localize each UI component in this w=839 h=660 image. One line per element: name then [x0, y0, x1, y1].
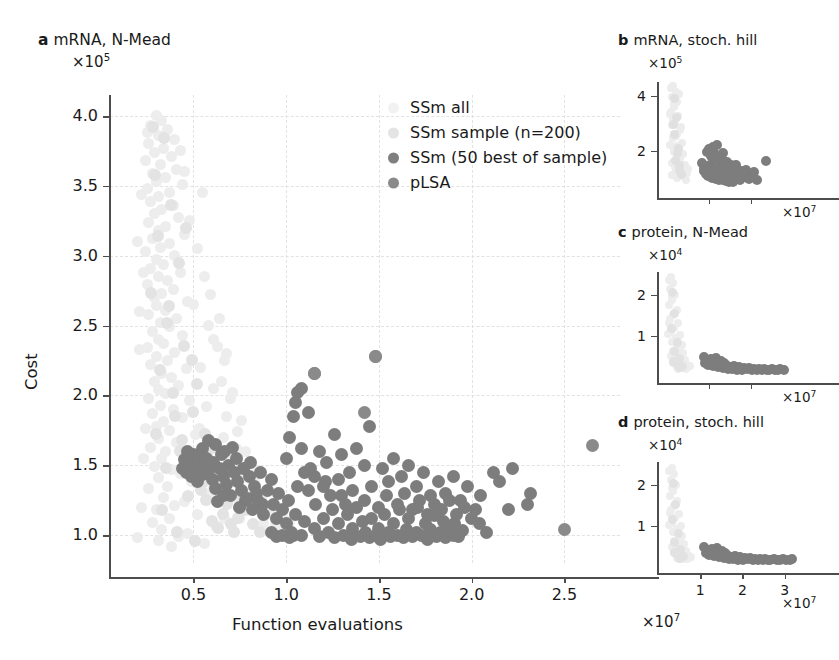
x-axis-tick [785, 573, 787, 579]
panel-title-d: dprotein, stoch. hill [618, 415, 764, 430]
legend-label: SSm (50 best of sample) [410, 150, 607, 166]
x-axis-multiplier-d: ×107 [782, 597, 816, 611]
axis-spine-left [657, 462, 659, 573]
data-point [674, 529, 683, 538]
legend-marker-2 [388, 127, 399, 138]
y-axis-tick-label: 1 [637, 519, 646, 533]
legend-marker-4 [388, 177, 399, 188]
panel-letter-d: d [618, 414, 628, 430]
data-point [787, 554, 797, 564]
data-point [669, 479, 678, 488]
data-point [708, 546, 718, 556]
panel-title-text-d: protein, stoch. hill [633, 414, 764, 430]
legend-label: SSm all [410, 100, 470, 116]
axis-spine-bottom [657, 573, 839, 575]
legend-marker-3 [388, 152, 399, 163]
data-point [775, 555, 785, 565]
y-axis-tick-label: 2 [637, 478, 646, 492]
data-point [668, 515, 677, 524]
legend-label: pLSA [410, 175, 450, 191]
data-point [722, 550, 732, 560]
plot-area-d [658, 462, 810, 567]
data-point [765, 555, 775, 565]
y-axis-multiplier-d: ×104 [648, 439, 682, 453]
x-axis-tick [742, 573, 744, 579]
y-axis-tick [651, 485, 657, 487]
data-point [671, 500, 680, 509]
y-axis-tick [651, 526, 657, 528]
x-axis-tick [700, 573, 702, 579]
legend-marker-1 [388, 102, 399, 113]
legend-label: SSm sample (n=200) [410, 125, 581, 141]
